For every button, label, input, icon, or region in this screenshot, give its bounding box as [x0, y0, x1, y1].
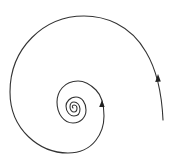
- spiral-curve: [10, 16, 163, 153]
- arrow-inner-icon: [99, 100, 104, 107]
- spiral-diagram: [0, 0, 173, 159]
